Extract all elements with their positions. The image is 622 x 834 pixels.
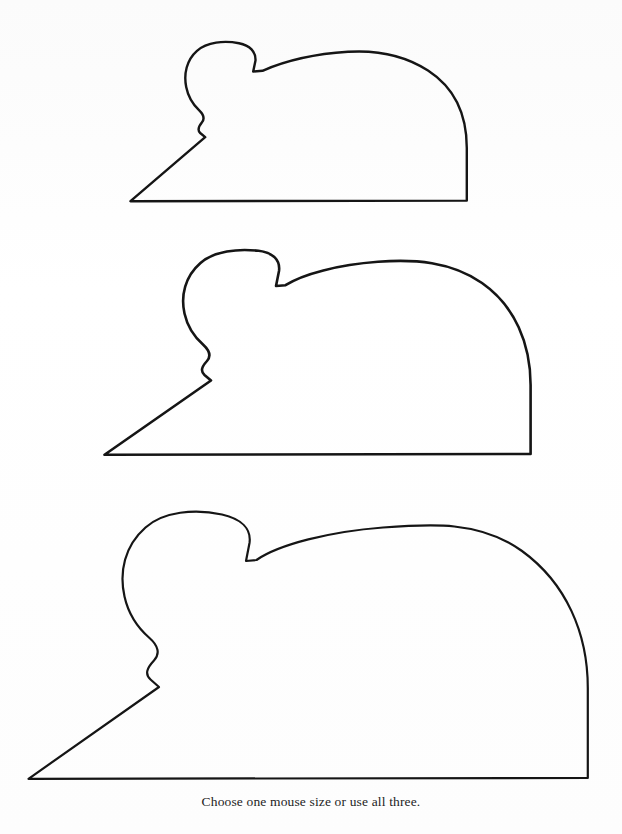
pattern-page: · ·· · · · Choose one mouse size or use … [0,0,622,834]
large-mouse-pattern [29,512,588,779]
small-mouse-outline [131,42,467,201]
small-mouse-pattern [131,42,467,201]
medium-mouse-outline [105,250,531,455]
page-caption: Choose one mouse size or use all three. [0,794,622,810]
mouse-patterns-group [0,0,622,834]
medium-mouse-pattern [105,250,531,455]
large-mouse-outline [29,512,588,779]
